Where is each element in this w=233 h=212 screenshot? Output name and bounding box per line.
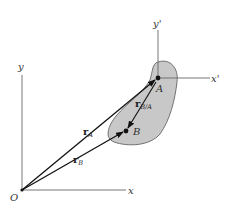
x-prime-label: x'	[211, 73, 219, 84]
y-axis-label: y	[17, 61, 24, 72]
point-b-label: B	[132, 126, 140, 137]
point-o	[20, 188, 23, 191]
y-prime-label: y'	[152, 18, 161, 29]
point-b	[124, 129, 129, 134]
origin-label: O	[10, 192, 18, 203]
point-a	[156, 76, 161, 81]
diagram-canvas: x y O x' y' A B rA rB rB/A	[0, 0, 233, 212]
x-axis-label: x	[128, 185, 134, 196]
vector-r-a-label: rA	[83, 126, 93, 139]
point-a-label: A	[155, 83, 163, 94]
